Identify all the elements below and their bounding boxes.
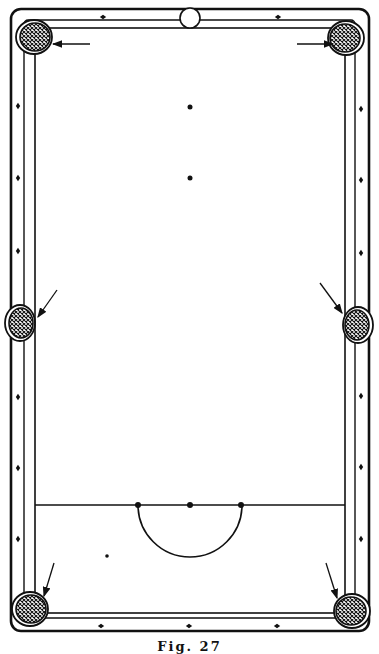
diamond-sight: [100, 15, 106, 19]
pocket-net-icon: [16, 595, 46, 623]
diamond-sight: [359, 177, 363, 183]
arrow-middle-right-icon: [320, 283, 342, 313]
diamond-sight: [16, 465, 20, 471]
diamond-sight: [16, 248, 20, 254]
spot-pink: [188, 176, 193, 181]
d-semicircle: [138, 505, 242, 557]
diamond-sight: [186, 624, 192, 628]
pocket-top-right: [328, 21, 364, 55]
table-markings: [35, 8, 345, 558]
outer-rail: [11, 9, 369, 631]
pocket-net-icon: [336, 597, 366, 625]
white-ball: [180, 8, 200, 28]
pocket-net-icon: [345, 310, 369, 340]
diamond-sight: [16, 394, 20, 400]
diamond-sight: [16, 536, 20, 542]
pocket-middle-left: [5, 305, 35, 341]
diamond-sight: [274, 624, 280, 628]
pocket-middle-right: [343, 307, 373, 343]
spot-brown: [187, 502, 193, 508]
pocket-bottom-right: [334, 594, 370, 628]
rail-inner-edge: [24, 20, 355, 618]
cushion-line: [35, 28, 345, 613]
diamond-sight: [359, 106, 363, 112]
pocket-arrows: [38, 44, 342, 598]
pocket-net-icon: [330, 24, 360, 52]
diamond-sight: [359, 536, 363, 542]
pocket-net-icon: [20, 23, 50, 51]
diamond-sight: [359, 393, 363, 399]
spot-black: [188, 105, 193, 110]
table-frame: [11, 9, 369, 631]
pocket-bottom-left: [12, 592, 48, 626]
diamond-sight: [275, 15, 281, 19]
arrow-middle-left-icon: [38, 290, 57, 317]
diamond-sight: [359, 464, 363, 470]
arrow-bottom-left-icon: [44, 563, 54, 596]
diamond-sight: [16, 175, 20, 181]
pocket-top-left: [16, 20, 52, 54]
diamond-sight: [359, 250, 363, 256]
pocket-net-icon: [9, 308, 33, 338]
cue-ball-position: [105, 554, 109, 558]
pockets: [5, 20, 373, 628]
arrow-bottom-right-icon: [326, 563, 337, 598]
diamond-sight: [16, 103, 20, 109]
figure-caption: Fig. 27: [0, 640, 379, 654]
diamond-sight: [98, 624, 104, 628]
spot-green: [238, 502, 244, 508]
spot-yellow: [135, 502, 141, 508]
